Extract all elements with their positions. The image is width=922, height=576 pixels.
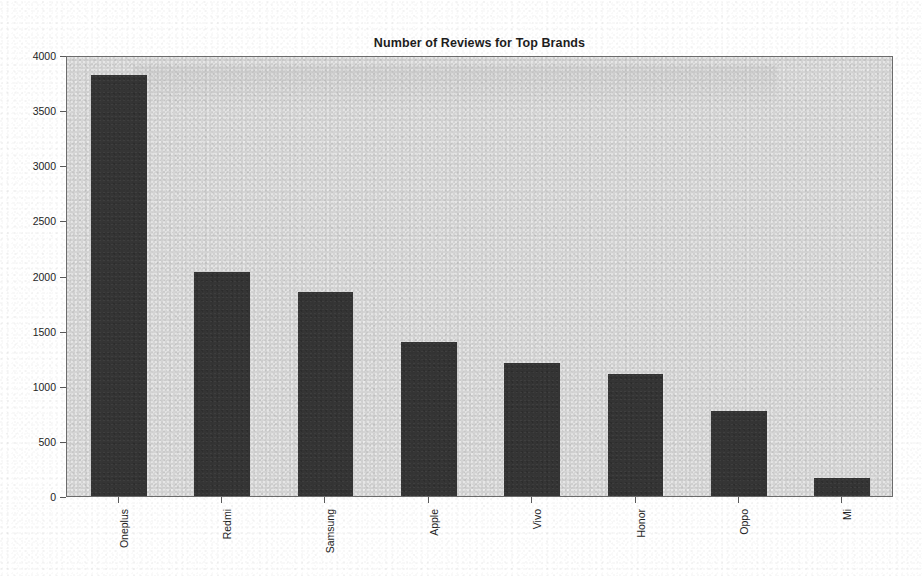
x-axis-tick [324, 497, 325, 503]
y-axis-tick [60, 221, 66, 222]
x-axis-tick [635, 497, 636, 503]
x-axis-tick [118, 497, 119, 503]
bar [814, 478, 870, 496]
x-axis-tick [841, 497, 842, 503]
y-axis-tick-label: 1000 [4, 381, 56, 393]
y-axis-tick-label: 3000 [4, 160, 56, 172]
bar [194, 272, 250, 496]
y-axis-tick [60, 442, 66, 443]
bar-series [67, 57, 892, 496]
x-axis-tick [428, 497, 429, 503]
x-axis-tick-label: Vivo [531, 509, 543, 529]
y-axis-tick [60, 332, 66, 333]
plot-area [66, 56, 893, 497]
x-axis-tick [221, 497, 222, 503]
y-axis-tick-label: 0 [4, 491, 56, 503]
bar [608, 374, 664, 496]
y-axis-tick [60, 277, 66, 278]
bar [298, 292, 354, 496]
x-axis-tick [738, 497, 739, 503]
y-axis-tick [60, 111, 66, 112]
bar [504, 363, 560, 496]
bar [401, 342, 457, 496]
bar [91, 75, 147, 496]
x-axis-tick-label: Oppo [738, 509, 750, 535]
x-axis-tick-label: Mi [841, 509, 853, 520]
y-axis-tick-label: 2000 [4, 271, 56, 283]
bar [711, 411, 767, 496]
x-axis-tick-label: Samsung [324, 509, 336, 553]
y-axis-tick [60, 56, 66, 57]
x-axis-tick-label: Redmi [221, 509, 233, 539]
y-axis-tick-label: 500 [4, 436, 56, 448]
y-axis-tick [60, 166, 66, 167]
y-axis-tick-label: 2500 [4, 215, 56, 227]
chart-title: Number of Reviews for Top Brands [66, 36, 893, 50]
chart-figure: Number of Reviews for Top Brands 0500100… [0, 0, 922, 576]
x-axis-tick [531, 497, 532, 503]
x-axis-tick-label: Honor [635, 509, 647, 538]
x-axis-tick-label: Apple [428, 509, 440, 536]
y-axis-tick [60, 497, 66, 498]
y-axis-tick-label: 3500 [4, 105, 56, 117]
y-axis-tick [60, 387, 66, 388]
y-axis-tick-label: 1500 [4, 326, 56, 338]
y-axis-tick-label: 4000 [4, 50, 56, 62]
x-axis-tick-label: Oneplus [118, 509, 130, 548]
